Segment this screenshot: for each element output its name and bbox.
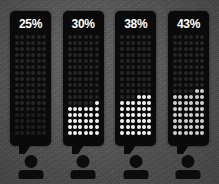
person-body-4 [176,170,201,179]
matrix-dot [84,113,88,117]
speech-bubble-2: 30% [63,11,104,146]
matrix-dot [89,95,93,99]
matrix-dot [68,41,72,45]
matrix-dot [31,95,35,99]
matrix-dot [84,41,88,45]
matrix-dot [15,95,19,99]
matrix-dot [131,89,135,93]
matrix-dot [84,47,88,51]
matrix-dot [84,95,88,99]
matrix-dot [37,131,41,135]
matrix-dot [73,35,77,39]
person-icon-4 [174,155,202,181]
matrix-dot [26,71,30,75]
dot-matrix-3 [120,35,151,135]
matrix-dot [200,41,204,45]
matrix-dot [120,77,124,81]
matrix-dot [89,119,93,123]
matrix-dot [120,65,124,69]
matrix-dot [195,113,199,117]
matrix-dot [178,47,182,51]
matrix-dot [184,125,188,129]
matrix-dot [147,89,151,93]
speech-bubble-1: 25% [10,11,51,146]
matrix-dot [26,131,30,135]
matrix-dot [89,83,93,87]
matrix-dot [31,131,35,135]
matrix-dot [120,107,124,111]
matrix-dot [126,65,130,69]
matrix-dot [26,125,30,129]
matrix-dot [73,65,77,69]
matrix-dot [89,131,93,135]
matrix-dot [42,125,46,129]
matrix-dot [131,101,135,105]
matrix-dot [95,113,99,117]
matrix-dot [126,131,130,135]
matrix-dot [20,35,24,39]
matrix-dot [173,119,177,123]
matrix-dot [73,89,77,93]
matrix-dot [31,113,35,117]
matrix-dot [89,71,93,75]
matrix-dot [20,41,24,45]
person-head-2 [77,155,90,168]
matrix-dot [200,83,204,87]
speech-bubble-tail-3 [124,145,136,154]
matrix-dot [178,83,182,87]
matrix-dot [126,77,130,81]
stat-column-3: 38% [115,11,156,181]
matrix-dot [189,47,193,51]
matrix-dot [184,95,188,99]
matrix-dot [137,65,141,69]
person-head-3 [129,155,142,168]
matrix-dot [178,71,182,75]
matrix-dot [26,119,30,123]
stat-column-1: 25% [10,11,51,181]
matrix-dot [173,35,177,39]
matrix-dot [184,47,188,51]
matrix-dot [73,53,77,57]
speech-bubble-tail-1 [19,145,31,154]
person-icon-1 [17,155,45,181]
matrix-dot [20,59,24,63]
matrix-dot [42,107,46,111]
matrix-dot [137,119,141,123]
matrix-dot [31,119,35,123]
person-head-1 [24,155,37,168]
matrix-dot [142,125,146,129]
matrix-dot [89,125,93,129]
matrix-dot [189,77,193,81]
matrix-dot [173,65,177,69]
matrix-dot [120,59,124,63]
matrix-dot [147,65,151,69]
matrix-dot [131,41,135,45]
matrix-dot [31,59,35,63]
matrix-dot [126,125,130,129]
matrix-dot [178,59,182,63]
matrix-dot [68,35,72,39]
matrix-dot [31,107,35,111]
dot-matrix-2 [68,35,99,135]
matrix-dot [89,41,93,45]
matrix-dot [120,131,124,135]
matrix-dot [78,71,82,75]
matrix-dot [68,53,72,57]
matrix-dot [78,83,82,87]
matrix-dot [84,89,88,93]
matrix-dot [131,113,135,117]
matrix-dot [78,107,82,111]
matrix-dot [68,59,72,63]
matrix-dot [200,71,204,75]
matrix-dot [137,59,141,63]
matrix-dot [195,107,199,111]
matrix-dot [73,119,77,123]
matrix-dot [147,71,151,75]
matrix-dot [137,131,141,135]
matrix-dot [15,125,19,129]
matrix-dot [26,47,30,51]
matrix-dot [95,131,99,135]
matrix-dot [137,41,141,45]
matrix-dot [195,95,199,99]
matrix-dot [89,53,93,57]
